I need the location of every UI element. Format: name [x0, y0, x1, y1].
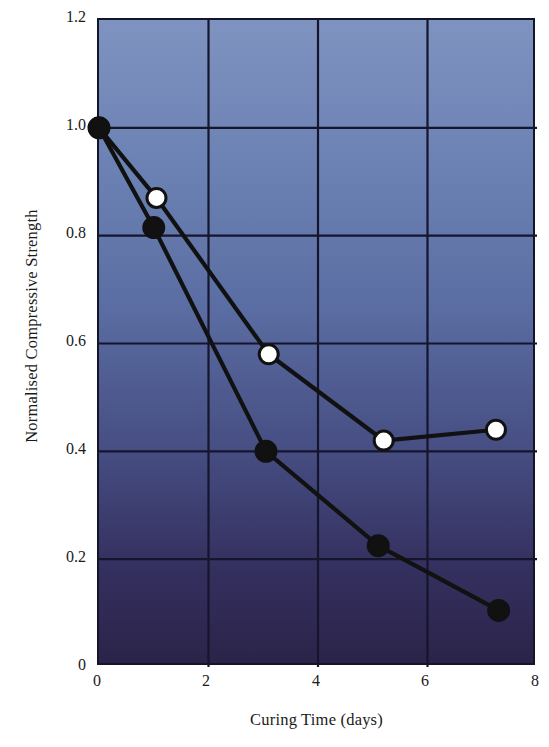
- x-tick-label: 0: [67, 672, 127, 690]
- series-line-open-circle-series: [99, 128, 496, 441]
- data-point-filled-circle-series: [255, 441, 276, 462]
- data-point-filled-circle-series: [143, 217, 164, 238]
- x-axis-title: Curing Time (days): [98, 710, 535, 730]
- data-point-open-circle-series: [486, 420, 505, 439]
- data-point-filled-circle-series: [89, 117, 110, 138]
- x-tick-label: 2: [176, 672, 236, 690]
- data-point-open-circle-series: [147, 188, 166, 207]
- gridlines: [99, 20, 537, 667]
- chart-figure: Normalised Compressive Strength 1.2 1.0 …: [0, 0, 549, 747]
- plot-canvas: [99, 20, 537, 667]
- data-point-open-circle-series: [374, 431, 393, 450]
- data-point-filled-circle-series: [368, 535, 389, 556]
- plot-area: [97, 18, 535, 665]
- x-tick-label: 4: [286, 672, 346, 690]
- data-point-open-circle-series: [259, 345, 278, 364]
- data-point-filled-circle-series: [488, 600, 509, 621]
- x-tick-label: 6: [395, 672, 455, 690]
- x-tick-label: 8: [505, 672, 549, 690]
- series-markers: [89, 117, 510, 621]
